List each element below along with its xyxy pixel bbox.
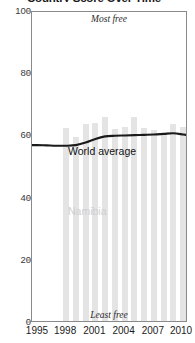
plot-area: Most free Least free World average Namib… bbox=[31, 11, 187, 322]
world-average-path bbox=[32, 133, 187, 146]
x-axis-tick-label: 1995 bbox=[26, 325, 48, 336]
series-label-namibia: Namibia bbox=[68, 205, 107, 217]
x-axis-tick-label: 1998 bbox=[54, 325, 76, 336]
chart-title: Country Score Over Time bbox=[27, 0, 187, 2]
x-axis: 199519982001200420072010 bbox=[31, 325, 187, 341]
series-label-world-average: World average bbox=[68, 145, 136, 157]
world-average-line bbox=[32, 12, 187, 322]
x-axis-tick-label: 2004 bbox=[113, 325, 135, 336]
x-axis-tick-label: 2010 bbox=[170, 325, 192, 336]
x-axis-tick-label: 2001 bbox=[83, 325, 105, 336]
annotation-most-free: Most free bbox=[32, 14, 186, 24]
y-axis: 020406080100 bbox=[0, 11, 31, 322]
chart-root: Country Score Over Time 020406080100 Mos… bbox=[0, 0, 195, 343]
annotation-least-free: Least free bbox=[32, 310, 186, 320]
x-axis-tick-label: 2007 bbox=[142, 325, 164, 336]
